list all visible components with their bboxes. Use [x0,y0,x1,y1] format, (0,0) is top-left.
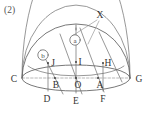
label-x: X [97,10,104,20]
figure-caption: (2) [4,5,15,16]
label-b: B [53,80,59,90]
point-dot-b [54,77,56,79]
label-j: J [51,58,55,68]
label-a: A [97,80,104,90]
point-dot-j [47,62,49,64]
label-g: G [136,74,143,84]
label-d: D [44,94,51,104]
label-i: I [78,57,81,67]
slant-line-4 [99,32,122,82]
label-h: H [105,58,112,68]
point-dot-i [75,61,77,63]
point-dot-a [97,77,99,79]
circled-b-label: b [41,52,45,60]
label-o: O [75,80,82,90]
label-e: E [73,96,79,106]
point-dot-o [75,77,77,79]
label-f: F [100,94,105,104]
geometry-figure: (2) [0,0,151,117]
label-c: C [11,74,17,84]
